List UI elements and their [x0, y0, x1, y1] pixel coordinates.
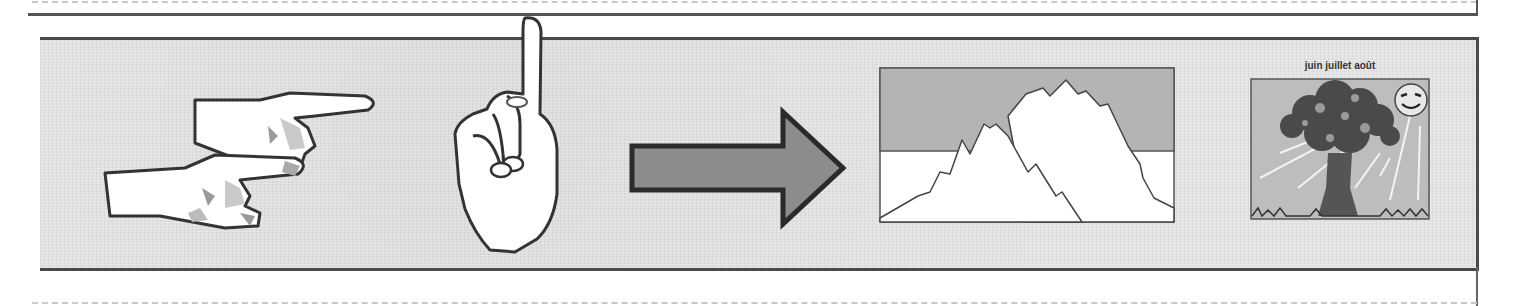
- dashed-cut-line-bottom: [32, 302, 1477, 304]
- right-rule-top: [1476, 0, 1478, 16]
- tree-caption: juin juillet août: [1250, 60, 1430, 71]
- raised-index-finger-icon: [445, 14, 565, 254]
- right-arrow-icon: [628, 108, 853, 228]
- pointing-hands-icon: [100, 88, 385, 238]
- mountain-histogram-icon: [878, 66, 1178, 226]
- right-rule-bottom: [1476, 267, 1478, 306]
- dashed-cut-line-top: [32, 1, 1477, 3]
- top-rule: [28, 13, 1478, 16]
- tree-sun-icon: [1250, 78, 1432, 223]
